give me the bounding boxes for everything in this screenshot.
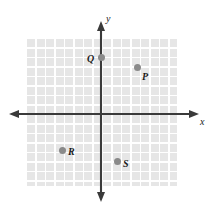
- point-r-marker: [59, 147, 66, 154]
- point-q-marker: [98, 54, 105, 61]
- axes-layer: [0, 0, 209, 207]
- y-axis-label: y: [106, 14, 110, 24]
- point-q-label: Q: [87, 54, 94, 64]
- point-p-marker: [134, 64, 141, 71]
- y-axis-up-arrow-icon: [97, 21, 105, 31]
- point-s-label: S: [123, 159, 129, 169]
- x-axis-label: x: [200, 117, 204, 127]
- point-r-label: R: [68, 147, 75, 157]
- coordinate-plane-figure: y x Q P R S: [0, 0, 209, 207]
- point-s-marker: [114, 158, 121, 165]
- y-axis-down-arrow-icon: [97, 192, 105, 202]
- point-p-label: P: [142, 72, 148, 82]
- x-axis-left-arrow-icon: [9, 110, 19, 118]
- x-axis-right-arrow-icon: [189, 110, 199, 118]
